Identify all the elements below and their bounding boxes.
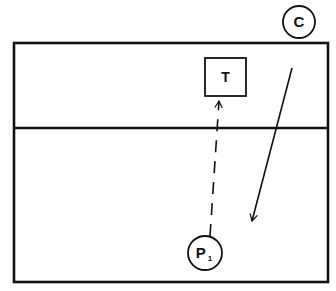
player-p1-subscript: 1 (208, 254, 213, 263)
play-diagram: T C P1 (0, 0, 336, 291)
player-c-label: C (294, 13, 305, 30)
dashed-pass-arrow (210, 101, 219, 236)
player-c: C (283, 6, 315, 38)
player-p1-letter: P (196, 244, 206, 261)
player-p1: P1 (188, 236, 222, 270)
target-label: T (221, 69, 230, 85)
court-boundary (14, 43, 328, 282)
target-t: T (205, 58, 246, 96)
solid-movement-arrow (252, 68, 292, 221)
